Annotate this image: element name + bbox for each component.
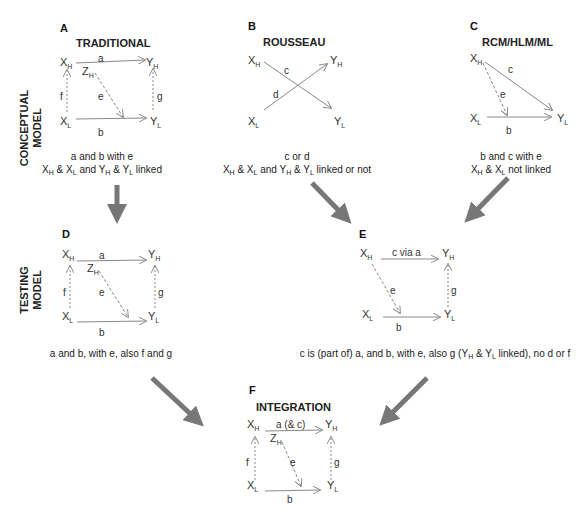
svg-text:YL: YL — [444, 308, 455, 322]
svg-text:YH: YH — [146, 56, 158, 70]
diagram-canvas: CONCEPTUAL MODEL TESTING MODEL A TRADITI… — [0, 0, 581, 519]
side-label-testing: TESTING MODEL — [18, 266, 43, 314]
flow-arrow-d-to-f — [152, 378, 198, 421]
svg-text:g: g — [158, 287, 164, 298]
svg-text:C: C — [470, 20, 478, 32]
svg-text:XL: XL — [62, 310, 73, 324]
panel-f-integration: F INTEGRATION XH YH XL YL ZH a (& c) b f… — [246, 384, 340, 505]
svg-text:XH & XL and YH & YL linked or: XH & XL and YH & YL linked or not — [223, 164, 371, 176]
svg-text:a (& c): a (& c) — [276, 419, 305, 430]
svg-text:XH: XH — [470, 52, 482, 66]
svg-text:XH: XH — [62, 248, 74, 262]
svg-text:f: f — [63, 287, 66, 298]
svg-text:c via a: c via a — [392, 247, 421, 258]
svg-text:TESTING: TESTING — [18, 266, 30, 314]
svg-text:XL: XL — [248, 115, 259, 129]
svg-text:a and b, with e, also f and g: a and b, with e, also f and g — [50, 348, 172, 359]
svg-text:D: D — [62, 228, 70, 240]
svg-text:XH: XH — [60, 56, 72, 70]
svg-text:XH & XL not linked: XH & XL not linked — [471, 164, 551, 176]
svg-text:ZH: ZH — [87, 262, 99, 276]
flow-arrow-c-to-e — [470, 178, 508, 217]
panel-a-traditional: A TRADITIONAL XH YH XL YL ZH a b f g e a… — [42, 22, 163, 176]
svg-text:XL: XL — [362, 308, 373, 322]
svg-text:e: e — [390, 285, 396, 296]
svg-text:b: b — [99, 327, 105, 338]
svg-text:CONCEPTUAL: CONCEPTUAL — [18, 90, 30, 167]
svg-text:YL: YL — [557, 112, 568, 126]
svg-text:ROUSSEAU: ROUSSEAU — [263, 36, 325, 48]
svg-text:b: b — [98, 127, 104, 138]
svg-text:TRADITIONAL: TRADITIONAL — [76, 37, 151, 49]
flow-arrow-e-to-f — [385, 378, 427, 420]
svg-text:XL: XL — [60, 115, 71, 129]
svg-text:e: e — [500, 89, 506, 100]
svg-text:a: a — [99, 250, 105, 261]
panel-d-testing: D XH YH XL YL ZH a b f g e a and b, with… — [50, 228, 172, 359]
svg-text:g: g — [451, 285, 457, 296]
svg-text:E: E — [359, 228, 366, 240]
svg-text:e: e — [290, 457, 296, 468]
svg-text:a: a — [98, 53, 104, 64]
svg-text:YH: YH — [330, 54, 342, 68]
svg-text:f: f — [60, 91, 63, 102]
svg-text:c: c — [508, 64, 513, 75]
svg-text:XL: XL — [247, 479, 258, 493]
svg-text:c is (part of) a, and b, with: c is (part of) a, and b, with e, also g … — [300, 348, 571, 360]
svg-text:RCM/HLM/ML: RCM/HLM/ML — [482, 36, 553, 48]
svg-text:c or d: c or d — [284, 151, 309, 162]
svg-text:YH: YH — [442, 247, 454, 261]
svg-text:ZH: ZH — [270, 432, 282, 446]
flow-arrow-b-to-e — [312, 183, 346, 218]
svg-text:g: g — [334, 457, 340, 468]
svg-text:YH: YH — [325, 418, 337, 432]
svg-text:B: B — [248, 20, 256, 32]
svg-text:b: b — [287, 494, 293, 505]
svg-text:F: F — [249, 384, 256, 396]
svg-text:YL: YL — [150, 115, 161, 129]
svg-text:A: A — [60, 22, 68, 34]
panel-c-rcm: C RCM/HLM/ML XH XL YL c e b b and c with… — [470, 20, 568, 176]
svg-text:XH & XL and YH & YL linked: XH & XL and YH & YL linked — [42, 164, 162, 176]
svg-text:e: e — [98, 91, 104, 102]
svg-text:XH: XH — [360, 247, 372, 261]
svg-text:ZH: ZH — [82, 65, 94, 79]
svg-text:b: b — [396, 322, 402, 333]
panel-b-rousseau: B ROUSSEAU XH YH XL YL c d c or d XH & X… — [223, 20, 371, 176]
svg-text:XH: XH — [247, 418, 259, 432]
svg-text:e: e — [99, 287, 105, 298]
svg-text:MODEL: MODEL — [31, 270, 43, 310]
side-label-conceptual: CONCEPTUAL MODEL — [18, 90, 43, 167]
svg-text:INTEGRATION: INTEGRATION — [256, 401, 331, 413]
svg-text:c: c — [284, 65, 289, 76]
svg-text:YL: YL — [327, 479, 338, 493]
svg-text:XH: XH — [248, 54, 260, 68]
svg-text:g: g — [157, 91, 163, 102]
svg-text:b: b — [506, 125, 512, 136]
svg-text:YH: YH — [148, 248, 160, 262]
svg-text:b and c with e: b and c with e — [480, 151, 542, 162]
panel-e-testing: E XH YH XL YL c via a b g e c is (part o… — [300, 228, 571, 360]
svg-text:a and b with e: a and b with e — [71, 151, 134, 162]
svg-text:MODEL: MODEL — [31, 108, 43, 148]
svg-text:YL: YL — [334, 115, 345, 129]
svg-text:f: f — [246, 457, 249, 468]
svg-text:d: d — [273, 89, 279, 100]
svg-text:XL: XL — [470, 112, 481, 126]
svg-text:YL: YL — [148, 310, 159, 324]
